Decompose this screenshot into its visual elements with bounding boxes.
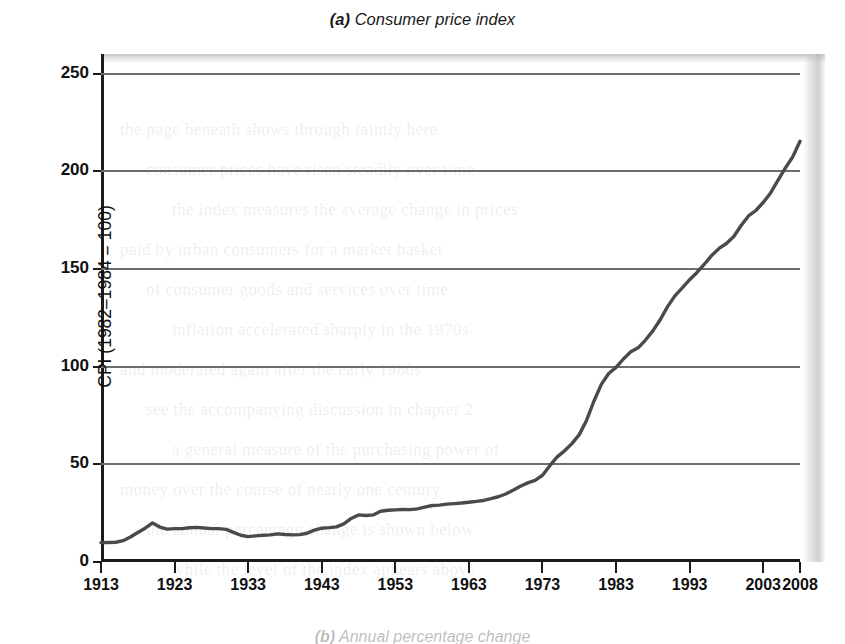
next-panel-tag: (b) <box>315 628 335 644</box>
panel-title: (a) Consumer price index <box>0 10 845 29</box>
y-tick-label-50: 50 <box>29 453 89 473</box>
y-tick-label-100: 100 <box>29 356 89 376</box>
x-tick-label-1913: 1913 <box>71 576 131 594</box>
next-panel-title: (b) Annual percentage change <box>0 628 845 644</box>
x-tick-label-1983: 1983 <box>586 576 646 594</box>
x-tick-label-1953: 1953 <box>365 576 425 594</box>
x-tick-label-1943: 1943 <box>292 576 352 594</box>
x-tick-2008 <box>799 562 801 573</box>
cpi-figure: the page beneath shows through faintly h… <box>0 0 845 644</box>
x-tick-label-1923: 1923 <box>145 576 205 594</box>
y-tick-label-150: 150 <box>29 258 89 278</box>
panel-title-text: Consumer price index <box>355 10 516 28</box>
x-tick-1943 <box>321 562 323 573</box>
x-tick-1973 <box>541 562 543 573</box>
x-tick-1993 <box>689 562 691 573</box>
plot-area: CPI (1982–1984 = 100) 050100150200250191… <box>101 54 825 562</box>
x-tick-1983 <box>615 562 617 573</box>
x-tick-2003 <box>762 562 764 573</box>
next-panel-title-text: Annual percentage change <box>339 628 530 644</box>
x-tick-1963 <box>468 562 470 573</box>
cpi-line <box>101 141 800 542</box>
x-tick-1953 <box>394 562 396 573</box>
y-tick-label-0: 0 <box>29 551 89 571</box>
x-tick-label-1993: 1993 <box>660 576 720 594</box>
cpi-series-plot <box>101 54 825 562</box>
x-tick-1933 <box>247 562 249 573</box>
panel-tag: (a) <box>330 10 350 28</box>
x-tick-1913 <box>100 562 102 573</box>
x-tick-label-1933: 1933 <box>218 576 278 594</box>
x-tick-1923 <box>174 562 176 573</box>
x-tick-label-2008: 2008 <box>770 576 830 594</box>
y-tick-label-200: 200 <box>29 160 89 180</box>
x-tick-label-1963: 1963 <box>439 576 499 594</box>
y-axis-title: CPI (1982–1984 = 100) <box>95 37 116 557</box>
y-tick-label-250: 250 <box>29 63 89 83</box>
x-tick-label-1973: 1973 <box>512 576 572 594</box>
